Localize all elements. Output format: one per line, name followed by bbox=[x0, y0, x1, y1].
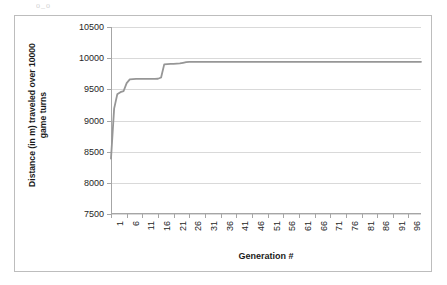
x-tick-mark bbox=[346, 214, 347, 218]
x-tick-mark bbox=[268, 214, 269, 218]
x-tick-label: 41 bbox=[240, 221, 250, 231]
x-tick-label: 96 bbox=[412, 221, 422, 231]
x-tick-label: 76 bbox=[350, 221, 360, 231]
x-tick-label: 21 bbox=[178, 221, 188, 231]
y-tick-label: 10500 bbox=[79, 22, 104, 32]
x-tick-label: 61 bbox=[303, 221, 313, 231]
x-tick-mark bbox=[362, 214, 363, 218]
series-line-chart bbox=[111, 27, 421, 214]
y-axis-title-text: Distance (in m) traveled over 10000 game… bbox=[27, 43, 49, 187]
series-polyline-best-distance bbox=[111, 62, 421, 159]
x-tick-mark bbox=[252, 214, 253, 218]
x-tick-label: 36 bbox=[225, 221, 235, 231]
x-tick-label: 51 bbox=[272, 221, 282, 231]
x-tick-mark bbox=[189, 214, 190, 218]
x-tick-label: 6 bbox=[131, 221, 141, 226]
scan-artifact: o_o bbox=[36, 1, 60, 10]
x-tick-label: 11 bbox=[146, 221, 156, 230]
y-tick-label: 9500 bbox=[84, 84, 104, 94]
x-tick-label: 81 bbox=[366, 221, 376, 231]
x-tick-label: 46 bbox=[256, 221, 266, 231]
x-tick-label: 31 bbox=[209, 221, 219, 231]
x-tick-label: 56 bbox=[287, 221, 297, 231]
y-tick-label: 7500 bbox=[84, 209, 104, 219]
x-tick-mark bbox=[236, 214, 237, 218]
x-tick-mark bbox=[174, 214, 175, 218]
x-tick-label: 16 bbox=[162, 221, 172, 231]
x-axis-title: Generation # bbox=[111, 249, 421, 263]
x-tick-mark bbox=[299, 214, 300, 218]
y-tick-label: 9000 bbox=[84, 116, 104, 126]
x-tick-mark bbox=[377, 214, 378, 218]
x-tick-mark bbox=[205, 214, 206, 218]
x-tick-label: 86 bbox=[381, 221, 391, 231]
x-tick-mark bbox=[142, 214, 143, 218]
x-tick-mark bbox=[408, 214, 409, 218]
chart-canvas: Distance (in m) traveled over 10000 game… bbox=[15, 16, 433, 273]
x-tick-label: 26 bbox=[193, 221, 203, 231]
chart-figure-frame: Distance (in m) traveled over 10000 game… bbox=[14, 15, 432, 272]
x-tick-mark bbox=[111, 214, 112, 218]
x-axis-title-text: Generation # bbox=[238, 251, 293, 261]
x-tick-mark bbox=[127, 214, 128, 218]
x-tick-mark bbox=[158, 214, 159, 218]
y-tick-label: 8500 bbox=[84, 147, 104, 157]
y-tick-label: 8000 bbox=[84, 178, 104, 188]
x-tick-mark bbox=[221, 214, 222, 218]
x-tick-mark bbox=[330, 214, 331, 218]
y-tick-label: 10000 bbox=[79, 53, 104, 63]
x-tick-label: 1 bbox=[115, 221, 125, 226]
x-tick-label: 91 bbox=[397, 221, 407, 231]
y-axis-title: Distance (in m) traveled over 10000 game… bbox=[25, 20, 51, 210]
y-axis-title-line1: Distance (in m) traveled over 10000 bbox=[27, 43, 37, 187]
x-tick-mark bbox=[315, 214, 316, 218]
plot-area: 105001000095009000850080007500 161116212… bbox=[111, 27, 421, 214]
y-axis-title-line2: game turns bbox=[38, 92, 48, 138]
x-tick-label: 66 bbox=[319, 221, 329, 231]
x-tick-mark bbox=[393, 214, 394, 218]
x-tick-mark bbox=[283, 214, 284, 218]
x-tick-label: 71 bbox=[334, 221, 344, 231]
